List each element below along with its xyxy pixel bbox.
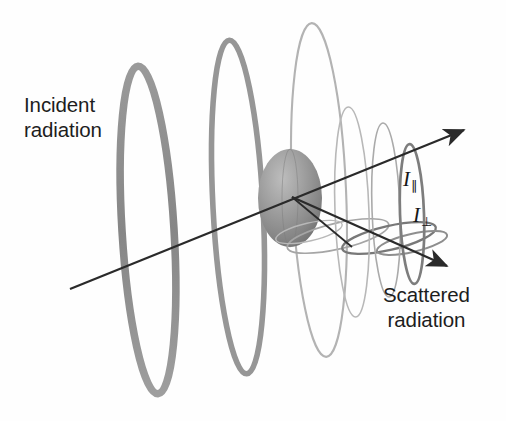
scattered-radiation-line2: radiation — [388, 308, 466, 331]
scattered-wave-loop — [369, 123, 403, 298]
incident-radiation-label: Incidentradiation — [24, 92, 102, 142]
scattered-radiation-label: Scatteredradiation — [383, 282, 470, 332]
light-scattering-figure: Incidentradiation Scatteredradiation I∥ … — [0, 0, 506, 421]
intensity-parallel-label: I∥ — [403, 167, 417, 194]
incident-radiation-line2: radiation — [24, 118, 102, 141]
incident-wave-loop — [112, 65, 184, 396]
intensity-perpendicular-subscript: ⊥ — [421, 214, 432, 229]
scattered-radiation-line1: Scattered — [383, 283, 470, 306]
intensity-parallel-subscript: ∥ — [411, 178, 418, 193]
intensity-perpendicular-symbol: I — [413, 203, 420, 227]
incident-radiation-line1: Incident — [24, 93, 95, 116]
scattering-particle — [258, 149, 322, 247]
intensity-perpendicular-label: I⊥ — [413, 203, 431, 230]
intensity-parallel-symbol: I — [403, 167, 410, 191]
scattered-wave-loop — [331, 106, 372, 317]
